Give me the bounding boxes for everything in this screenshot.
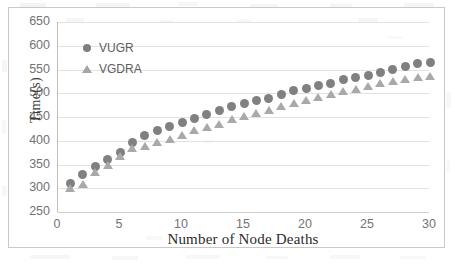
x-tick-label: 25 bbox=[355, 217, 379, 231]
triangle-marker-icon bbox=[80, 62, 94, 76]
y-tick-label: 600 bbox=[10, 38, 50, 52]
chart-figure: 250300350400450500550600650 051015202530… bbox=[0, 0, 455, 266]
circle-marker-icon bbox=[80, 41, 94, 55]
legend-label-vgdra: VGDRA bbox=[99, 62, 142, 76]
legend-item-vgdra: VGDRA bbox=[80, 61, 160, 77]
y-tick-label: 350 bbox=[10, 157, 50, 171]
x-axis-title: Number of Node Deaths bbox=[57, 231, 429, 248]
y-axis-title: Time(s) bbox=[28, 55, 44, 145]
plot-wrapper: 250300350400450500550600650 051015202530… bbox=[0, 0, 455, 266]
y-tick-label: 300 bbox=[10, 180, 50, 194]
x-tick-label: 30 bbox=[417, 217, 441, 231]
legend-item-vugr: VUGR bbox=[80, 40, 160, 56]
x-tick-label: 5 bbox=[107, 217, 131, 231]
x-tick-label: 0 bbox=[45, 217, 69, 231]
y-tick-label: 250 bbox=[10, 204, 50, 218]
chart-legend: VUGR VGDRA bbox=[80, 40, 160, 82]
x-tick-label: 15 bbox=[231, 217, 255, 231]
legend-label-vugr: VUGR bbox=[99, 41, 134, 55]
y-tick-label: 650 bbox=[10, 14, 50, 28]
x-tick-label: 20 bbox=[293, 217, 317, 231]
x-tick-label: 10 bbox=[169, 217, 193, 231]
